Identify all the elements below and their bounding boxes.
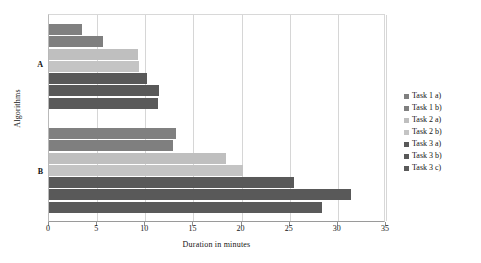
legend-item: Task 3 b) <box>404 150 481 162</box>
x-axis-tick-label: 15 <box>179 224 205 233</box>
legend-swatch-icon <box>404 118 409 123</box>
legend-item: Task 3 c) <box>404 162 481 174</box>
legend-swatch-icon <box>404 166 409 171</box>
legend-label: Task 1 b) <box>412 104 442 112</box>
bar <box>49 189 351 200</box>
y-axis-category-label-a: A <box>27 60 43 69</box>
legend-label: Task 2 a) <box>412 116 441 124</box>
bar <box>49 177 294 188</box>
legend-label: Task 3 b) <box>412 152 442 160</box>
legend-item: Task 2 a) <box>404 114 481 126</box>
legend-item: Task 1 b) <box>404 102 481 114</box>
bars-layer <box>49 15 384 221</box>
bar-chart: Algorithms A B 05101520253035 Duration i… <box>0 0 481 263</box>
y-axis-title: Algorithms <box>13 64 22 154</box>
bar <box>49 24 82 35</box>
legend-label: Task 1 a) <box>412 92 441 100</box>
bar <box>49 61 139 72</box>
legend-item: Task 3 a) <box>404 138 481 150</box>
x-axis-tick-label: 20 <box>228 224 254 233</box>
y-axis-category-label-b: B <box>27 167 43 176</box>
bar <box>49 128 176 139</box>
legend-label: Task 2 b) <box>412 128 442 136</box>
x-axis-tick-label: 0 <box>35 224 61 233</box>
legend-swatch-icon <box>404 106 409 111</box>
legend: Task 1 a)Task 1 b)Task 2 a)Task 2 b)Task… <box>404 90 481 174</box>
legend-swatch-icon <box>404 154 409 159</box>
bar <box>49 140 173 151</box>
legend-label: Task 3 c) <box>412 164 441 172</box>
legend-item: Task 2 b) <box>404 126 481 138</box>
bar <box>49 49 138 60</box>
bar <box>49 73 147 84</box>
bar <box>49 202 322 213</box>
plot-area <box>48 14 385 222</box>
x-axis-tick-label: 25 <box>276 224 302 233</box>
legend-item: Task 1 a) <box>404 90 481 102</box>
x-axis-tick-label: 5 <box>83 224 109 233</box>
gridline <box>386 15 387 221</box>
legend-swatch-icon <box>404 94 409 99</box>
x-axis-title: Duration in minutes <box>48 240 385 249</box>
x-axis-tick-label: 10 <box>131 224 157 233</box>
bar <box>49 165 243 176</box>
legend-label: Task 3 a) <box>412 140 441 148</box>
x-axis-tick-label: 30 <box>324 224 350 233</box>
legend-swatch-icon <box>404 130 409 135</box>
legend-swatch-icon <box>404 142 409 147</box>
bar <box>49 153 226 164</box>
bar <box>49 85 159 96</box>
bar <box>49 36 103 47</box>
x-axis-tick-label: 35 <box>372 224 398 233</box>
bar <box>49 98 158 109</box>
